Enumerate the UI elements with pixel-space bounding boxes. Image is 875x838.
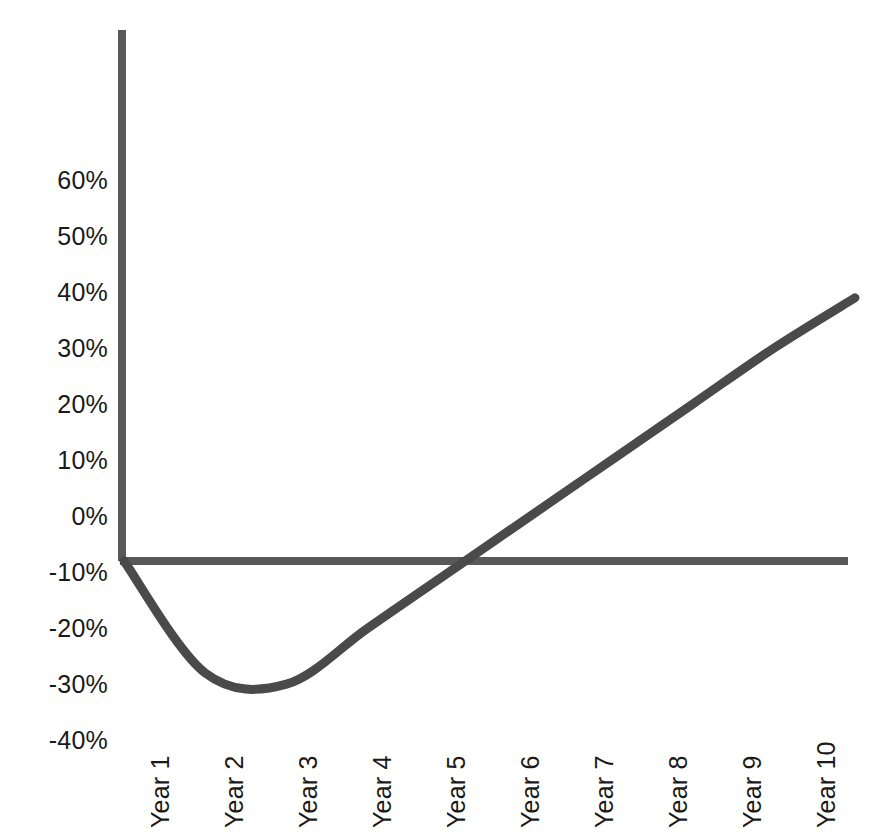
x-tick-label-year-10: Year 10	[814, 741, 839, 828]
x-axis-tick-labels: Year 1 Year 2 Year 3 Year 4 Year 5 Year …	[0, 0, 875, 838]
x-tick-label-year-5: Year 5	[444, 755, 469, 828]
x-tick-label-year-1: Year 1	[148, 755, 173, 828]
x-tick-label-year-2: Year 2	[222, 755, 247, 828]
chart-figure: 60% 50% 40% 30% 20% 10% 0% -10% -20% -30…	[0, 0, 875, 838]
x-tick-label-year-7: Year 7	[592, 755, 617, 828]
x-tick-label-year-9: Year 9	[740, 755, 765, 828]
x-tick-label-year-6: Year 6	[518, 755, 543, 828]
x-tick-label-year-4: Year 4	[370, 755, 395, 828]
x-tick-label-year-3: Year 3	[296, 755, 321, 828]
x-tick-label-year-8: Year 8	[666, 755, 691, 828]
